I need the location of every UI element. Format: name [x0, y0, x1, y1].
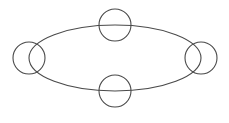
node-group [13, 9, 217, 107]
ring-diagram [0, 0, 229, 123]
ellipse-ring [29, 25, 201, 91]
